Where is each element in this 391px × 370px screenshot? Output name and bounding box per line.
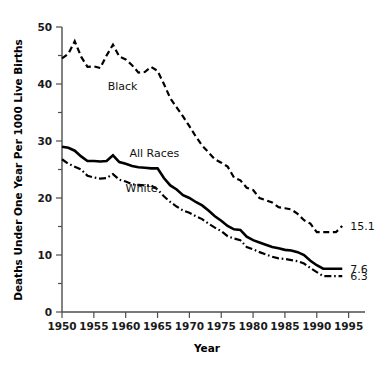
x-tick-label: 1950	[47, 320, 76, 332]
series-line-white	[62, 159, 342, 276]
infant-mortality-line-chart: 01020304050 1950195519601965197019751980…	[0, 0, 391, 370]
x-tick-label: 1995	[334, 320, 363, 332]
series-line-black	[62, 41, 342, 232]
x-tick-label: 1955	[79, 320, 108, 332]
x-axis-title: Year	[193, 342, 221, 354]
y-tick-label: 10	[37, 249, 52, 261]
x-tick-label: 1985	[270, 320, 299, 332]
chart-canvas: 01020304050 1950195519601965197019751980…	[0, 0, 391, 370]
x-tick-label: 1960	[111, 320, 140, 332]
y-axis-title: Deaths Under One Year Per 1000 Live Birt…	[12, 39, 24, 301]
x-tick-label: 1980	[238, 320, 267, 332]
series-line-all-races	[62, 147, 342, 269]
series-label-black: Black	[108, 80, 138, 93]
x-tick-label: 1990	[302, 320, 331, 332]
y-tick-label: 30	[37, 135, 52, 147]
series-lines	[62, 41, 342, 276]
y-tick-label: 0	[45, 306, 52, 318]
y-tick-label: 50	[37, 21, 52, 33]
x-tick-label: 1965	[143, 320, 172, 332]
y-tick-label: 40	[37, 78, 52, 90]
x-axis: 1950195519601965197019751980198519901995	[47, 312, 365, 332]
x-tick-label: 1970	[175, 320, 204, 332]
y-tick-label: 20	[37, 192, 52, 204]
series-label-all-races: All Races	[129, 147, 179, 160]
end-value-black: 15.1	[350, 220, 375, 233]
end-value-white: 6.3	[350, 270, 368, 283]
series-label-white: White	[126, 182, 158, 195]
y-axis: 01020304050	[37, 21, 62, 318]
x-tick-label: 1975	[207, 320, 236, 332]
